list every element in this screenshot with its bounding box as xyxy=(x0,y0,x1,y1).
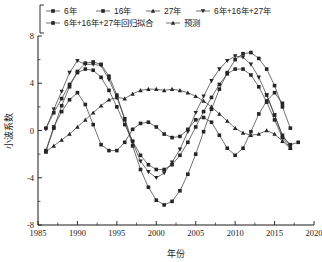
data-point xyxy=(162,132,166,136)
legend-item-1-2[interactable]: 16年 xyxy=(96,6,131,16)
legend-bracket xyxy=(40,5,44,33)
data-point xyxy=(218,83,222,87)
y-tick-label: 4 xyxy=(30,78,35,88)
data-point xyxy=(257,112,261,116)
x-tick-label: 2020 xyxy=(306,228,322,238)
legend-label: 预测 xyxy=(184,18,200,28)
data-point xyxy=(241,67,245,71)
data-point xyxy=(218,87,222,91)
legend-label: 6年+16年+27年回归拟合 xyxy=(64,18,154,28)
data-point xyxy=(131,144,135,148)
data-point xyxy=(249,63,253,67)
data-point xyxy=(52,144,56,148)
data-point xyxy=(84,61,88,65)
data-point xyxy=(225,146,229,150)
data-point xyxy=(154,125,158,129)
x-tick-label: 2010 xyxy=(227,228,244,238)
data-point xyxy=(233,154,237,158)
legend-item-1-1[interactable]: 6年 xyxy=(46,6,77,16)
x-axis-title: 年份 xyxy=(167,248,185,259)
data-point xyxy=(186,141,190,145)
data-point xyxy=(194,152,198,156)
legend-item-1-4[interactable]: 6年+16年+27年 xyxy=(196,6,271,16)
data-point xyxy=(52,126,56,130)
data-point xyxy=(289,126,293,130)
data-point xyxy=(170,87,174,91)
legend-label: 6年 xyxy=(64,6,77,16)
data-point xyxy=(194,118,198,122)
data-point xyxy=(115,93,119,97)
data-point xyxy=(154,198,158,202)
legend-label: 27年 xyxy=(164,6,181,16)
data-point xyxy=(68,85,72,89)
data-point xyxy=(162,203,166,207)
data-point xyxy=(202,116,206,120)
series-line xyxy=(46,93,283,156)
data-point xyxy=(139,154,143,158)
series-line xyxy=(46,69,290,169)
data-point xyxy=(101,9,105,13)
data-point xyxy=(154,176,158,180)
data-point xyxy=(210,107,214,111)
data-point xyxy=(68,98,72,102)
data-point xyxy=(249,73,253,77)
data-point xyxy=(202,130,206,134)
data-point xyxy=(76,70,80,74)
data-point xyxy=(147,185,151,189)
data-point xyxy=(123,141,127,145)
data-point xyxy=(107,149,111,153)
legend-item-2-1[interactable]: 6年+16年+27年回归拟合 xyxy=(46,18,154,28)
chart-axes xyxy=(38,36,314,225)
data-point xyxy=(257,132,261,136)
data-point xyxy=(91,60,95,64)
data-point xyxy=(115,105,119,109)
y-tick-label: 0 xyxy=(30,126,34,136)
data-point xyxy=(139,168,143,172)
data-point xyxy=(241,52,245,56)
data-point xyxy=(170,200,174,204)
data-point xyxy=(194,94,198,98)
legend-item-2-2[interactable]: 预测 xyxy=(166,18,200,28)
data-point xyxy=(60,97,64,101)
legend-item-1-3[interactable]: 27年 xyxy=(146,6,181,16)
data-point xyxy=(273,84,277,88)
data-point xyxy=(99,103,103,107)
chart-legend: 6年16年27年6年+16年+27年6年+16年+27年回归拟合预测 xyxy=(40,5,271,33)
series-line xyxy=(46,56,290,178)
data-point xyxy=(162,171,166,175)
data-point xyxy=(178,154,182,158)
data-point xyxy=(202,110,206,114)
x-tick-label: 1990 xyxy=(69,228,86,238)
data-point xyxy=(91,123,95,127)
data-point xyxy=(194,111,198,115)
data-point xyxy=(201,94,205,98)
data-point xyxy=(76,91,80,95)
x-tick-label: 1995 xyxy=(108,228,125,238)
data-point xyxy=(257,85,261,89)
data-point xyxy=(99,63,103,67)
data-point xyxy=(107,89,111,93)
data-point xyxy=(241,131,245,135)
data-point xyxy=(241,146,245,150)
data-point xyxy=(115,149,119,153)
data-point xyxy=(265,93,269,97)
data-point xyxy=(178,135,182,139)
data-point xyxy=(265,100,269,104)
data-point xyxy=(264,128,268,132)
data-point xyxy=(51,21,55,25)
data-point xyxy=(147,163,151,167)
data-point xyxy=(162,168,166,172)
data-point xyxy=(257,76,261,80)
data-point xyxy=(59,138,63,142)
data-point xyxy=(154,168,158,172)
data-point xyxy=(67,71,71,75)
x-tick-label: 2015 xyxy=(266,228,283,238)
data-point xyxy=(99,76,103,80)
data-point xyxy=(44,150,48,154)
y-tick-label: 8 xyxy=(30,31,34,41)
data-point xyxy=(147,120,151,124)
data-point xyxy=(107,74,111,78)
data-point xyxy=(139,122,143,126)
data-point xyxy=(281,105,285,109)
data-point xyxy=(218,133,222,137)
